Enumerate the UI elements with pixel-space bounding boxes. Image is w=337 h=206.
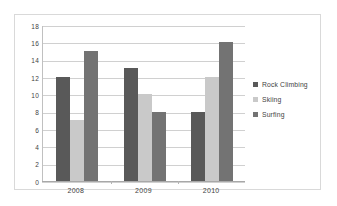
legend-label: Surfing <box>262 111 285 118</box>
bar-group <box>124 26 166 181</box>
y-axis-tick-label: 12 <box>17 75 39 82</box>
bar-2008-skiing[interactable] <box>70 120 84 181</box>
legend-swatch-icon <box>253 82 258 87</box>
bar-2010-surfing[interactable] <box>219 42 233 181</box>
legend-item-surfing[interactable]: Surfing <box>253 107 323 122</box>
bar-2009-skiing[interactable] <box>138 94 152 181</box>
bar-2008-rock-climbing[interactable] <box>56 77 70 181</box>
gridline <box>42 182 245 183</box>
y-axis-tick-label: 6 <box>17 127 39 134</box>
y-axis-tick-label: 18 <box>17 23 39 30</box>
x-axis-line <box>42 181 245 182</box>
y-axis-tick-label: 8 <box>17 109 39 116</box>
bar-2009-surfing[interactable] <box>152 112 166 181</box>
x-axis-category-label: 2010 <box>188 187 234 194</box>
y-axis-tick-label: 10 <box>17 92 39 99</box>
plot-area <box>42 26 245 182</box>
chart-frame: 181614121086420 200820092010 Rock Climbi… <box>14 14 321 190</box>
x-axis-category-label: 2009 <box>121 187 167 194</box>
y-axis-tick-label: 16 <box>17 40 39 47</box>
bar-2009-rock-climbing[interactable] <box>124 68 138 181</box>
x-axis-tick <box>178 181 179 184</box>
y-axis-tick-label: 0 <box>17 179 39 186</box>
legend-label: Rock Climbing <box>262 81 308 88</box>
x-axis-category-label: 2008 <box>53 187 99 194</box>
legend-item-rock-climbing[interactable]: Rock Climbing <box>253 77 323 92</box>
y-axis-tick-labels: 181614121086420 <box>15 26 39 182</box>
legend-swatch-icon <box>253 97 258 102</box>
bars-layer <box>43 26 245 181</box>
legend-swatch-icon <box>253 112 258 117</box>
chart-legend: Rock ClimbingSkiingSurfing <box>253 77 323 122</box>
legend-item-skiing[interactable]: Skiing <box>253 92 323 107</box>
bar-2010-skiing[interactable] <box>205 77 219 181</box>
bar-group <box>191 26 233 181</box>
bar-2008-surfing[interactable] <box>84 51 98 181</box>
bar-2010-rock-climbing[interactable] <box>191 112 205 181</box>
legend-label: Skiing <box>262 96 281 103</box>
bar-group <box>56 26 98 181</box>
chart-plot-wrapper: 181614121086420 200820092010 Rock Climbi… <box>15 15 320 189</box>
x-axis-tick <box>111 181 112 184</box>
y-axis-tick-label: 4 <box>17 144 39 151</box>
y-axis-tick-label: 14 <box>17 57 39 64</box>
y-axis-tick-label: 2 <box>17 161 39 168</box>
